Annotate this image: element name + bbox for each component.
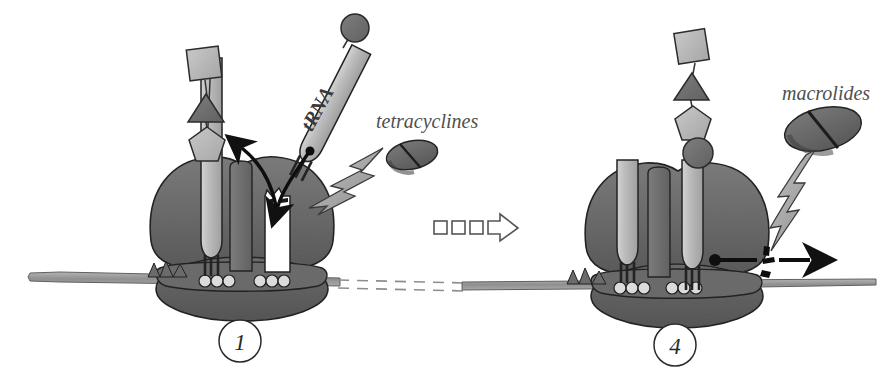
macrolides-label: macrolides: [782, 82, 870, 104]
arc-origin-dot-1: [306, 147, 315, 156]
aminoacyl-residue-circle-1: [341, 14, 369, 42]
ribosome-exit-channel-1: [230, 161, 252, 271]
figure-root: tRNA tetracyclines 1: [0, 0, 891, 382]
step-number-4: 4: [669, 334, 681, 359]
ribosome-exit-channel-4: [648, 167, 670, 277]
asite-peptidyl-trna-4: [682, 160, 703, 290]
step-badge-4: 4: [654, 324, 696, 366]
tetracyclines-label: tetracyclines: [376, 110, 478, 133]
asite-slot-1: [265, 188, 290, 272]
ribosome-small-subunit-4: [591, 264, 763, 328]
step-badge-1: 1: [219, 320, 261, 362]
psite-trna-1: [201, 58, 222, 276]
step-number-1: 1: [234, 330, 246, 355]
peptide-shape-square-4: [674, 29, 709, 64]
psite-trna-4: [617, 160, 638, 283]
peptide-shape-square-1: [186, 46, 222, 81]
peptide-shape-circle-4: [683, 138, 713, 168]
antibiotic-ribosome-diagram: tRNA tetracyclines 1: [0, 0, 891, 382]
